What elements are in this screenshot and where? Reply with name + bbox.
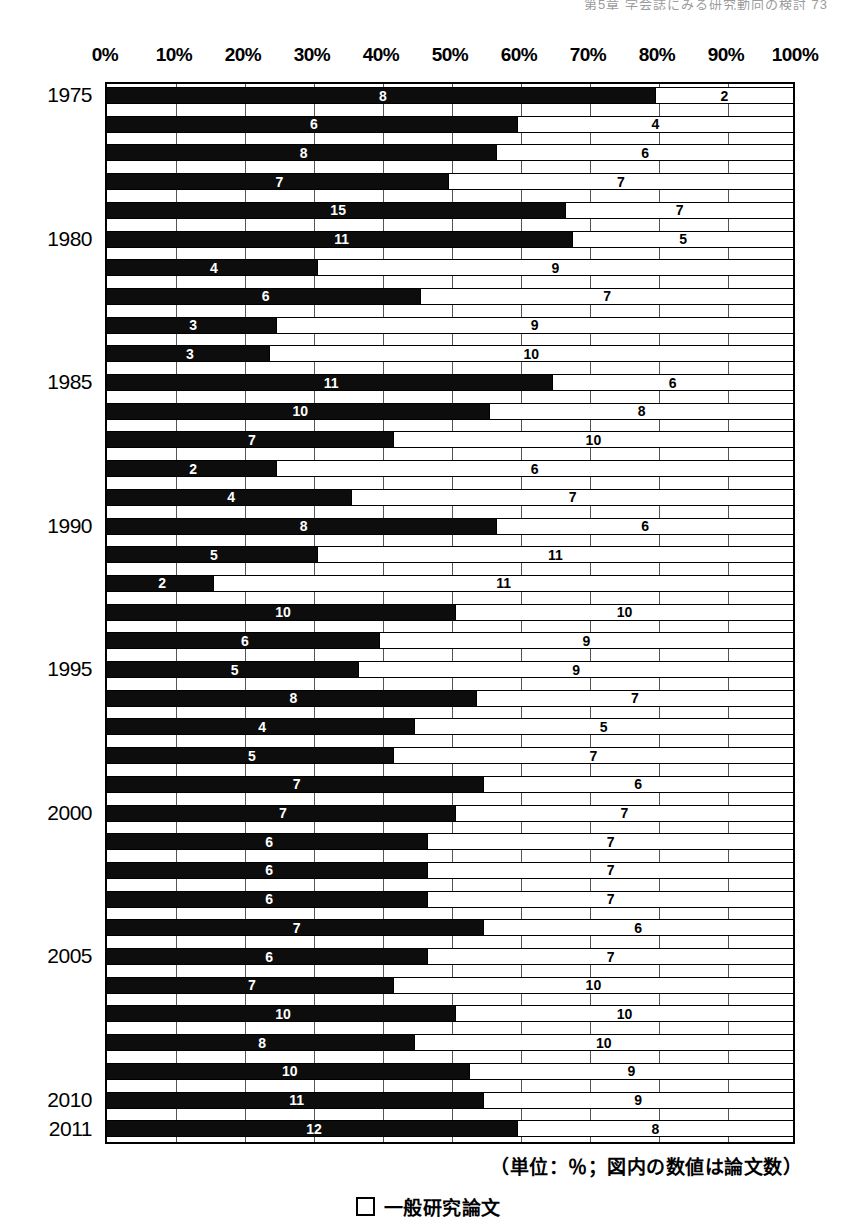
bar-segment-dark: 6 <box>107 949 431 964</box>
stacked-bar: 69 <box>107 632 793 649</box>
bar-segment-light: 10 <box>455 1006 793 1021</box>
bar-segment-light: 7 <box>427 834 793 849</box>
bar-segment-dark: 11 <box>107 1093 487 1108</box>
x-axis-tick-60: 60% <box>489 44 549 66</box>
bar-segment-light: 4 <box>517 117 793 132</box>
stacked-bar: 86 <box>107 144 793 161</box>
bar-segment-dark: 4 <box>107 490 355 505</box>
bar-segment-dark: 2 <box>107 576 217 591</box>
chart-row: 211 <box>107 572 793 597</box>
white-square-icon <box>356 1197 375 1216</box>
chart-row: 67 <box>107 285 793 310</box>
chart-plot-area: 8264867715711549673931011610871026478651… <box>105 82 795 1144</box>
bar-segment-dark: 7 <box>107 806 459 821</box>
x-axis-tick-50: 50% <box>420 44 480 66</box>
chart-row: 116 <box>107 371 793 396</box>
x-axis-tick-20: 20% <box>213 44 273 66</box>
stacked-bar: 77 <box>107 805 793 822</box>
bar-segment-light: 5 <box>572 232 793 247</box>
x-axis-tick-40: 40% <box>351 44 411 66</box>
bar-segment-light: 10 <box>269 346 793 361</box>
stacked-bar: 57 <box>107 747 793 764</box>
y-axis-label-1985: 1985 <box>0 370 92 394</box>
chart-row: 57 <box>107 744 793 769</box>
chart-row: 67 <box>107 830 793 855</box>
stacked-bar: 67 <box>107 833 793 850</box>
chart-row: 87 <box>107 687 793 712</box>
bar-segment-dark: 5 <box>107 547 321 562</box>
bar-segment-light: 8 <box>517 1121 793 1136</box>
bar-segment-light: 9 <box>317 260 793 275</box>
stacked-bar: 45 <box>107 718 793 735</box>
bar-segment-dark: 11 <box>107 232 576 247</box>
stacked-bar: 87 <box>107 690 793 707</box>
stacked-bar: 119 <box>107 1092 793 1109</box>
chart-row: 77 <box>107 802 793 827</box>
bar-segment-dark: 7 <box>107 432 397 447</box>
bar-segment-light: 7 <box>427 863 793 878</box>
bar-segment-light: 5 <box>414 719 794 734</box>
bar-segment-dark: 6 <box>107 117 521 132</box>
stacked-bar: 115 <box>107 231 793 248</box>
x-axis-tick-90: 90% <box>696 44 756 66</box>
bar-segment-dark: 10 <box>107 1006 459 1021</box>
x-axis-tick-labels: 0%10%20%30%40%50%60%70%80%90%100% <box>0 44 846 66</box>
x-axis-tick-70: 70% <box>558 44 618 66</box>
bar-segment-light: 9 <box>469 1064 793 1079</box>
stacked-bar: 77 <box>107 173 793 190</box>
bar-segment-dark: 6 <box>107 289 424 304</box>
bar-segment-light: 8 <box>489 404 793 419</box>
chart-row: 1010 <box>107 601 793 626</box>
chart-row: 49 <box>107 256 793 281</box>
y-axis-label-2011: 2011 <box>0 1117 92 1141</box>
y-axis-label-2005: 2005 <box>0 944 92 968</box>
stacked-bar: 109 <box>107 1063 793 1080</box>
stacked-bar: 39 <box>107 317 793 334</box>
bar-segment-dark: 8 <box>107 519 500 534</box>
y-axis-label-2000: 2000 <box>0 801 92 825</box>
y-axis-category-labels: 197519801985199019952000200520102011 <box>0 82 100 1144</box>
stacked-bar: 157 <box>107 202 793 219</box>
chart-row: 39 <box>107 314 793 339</box>
chart-row: 67 <box>107 888 793 913</box>
bar-segment-light: 7 <box>427 892 793 907</box>
bar-segment-dark: 7 <box>107 978 397 993</box>
stacked-bar: 1010 <box>107 1005 793 1022</box>
bar-segment-dark: 2 <box>107 461 280 476</box>
bar-segment-light: 11 <box>213 576 793 591</box>
chart-row: 511 <box>107 543 793 568</box>
bar-segment-light: 6 <box>483 777 794 792</box>
y-axis-label-1975: 1975 <box>0 83 92 107</box>
bar-segment-light: 9 <box>276 318 794 333</box>
chart-row: 109 <box>107 1060 793 1085</box>
bar-segment-light: 7 <box>565 203 793 218</box>
bar-segment-dark: 8 <box>107 691 480 706</box>
bar-segment-dark: 6 <box>107 892 431 907</box>
chart-bar-rows: 8264867715711549673931011610871026478651… <box>107 84 793 1142</box>
bar-segment-dark: 8 <box>107 88 659 103</box>
bar-segment-dark: 3 <box>107 318 280 333</box>
bar-segment-light: 11 <box>317 547 793 562</box>
bar-segment-dark: 8 <box>107 145 500 160</box>
bar-segment-light: 7 <box>393 748 793 763</box>
chart-row: 108 <box>107 400 793 425</box>
chart-row: 128 <box>107 1117 793 1142</box>
stacked-bar: 710 <box>107 977 793 994</box>
chart-row: 86 <box>107 515 793 540</box>
x-axis-tick-80: 80% <box>627 44 687 66</box>
stacked-bar: 810 <box>107 1034 793 1051</box>
chart-row: 59 <box>107 658 793 683</box>
y-axis-label-1990: 1990 <box>0 514 92 538</box>
bar-segment-light: 10 <box>393 978 793 993</box>
bar-segment-light: 9 <box>358 662 793 677</box>
bar-segment-light: 6 <box>496 145 793 160</box>
bar-segment-dark: 11 <box>107 375 556 390</box>
bar-segment-dark: 7 <box>107 174 452 189</box>
chart-row: 76 <box>107 773 793 798</box>
bar-segment-dark: 3 <box>107 346 273 361</box>
stacked-bar: 26 <box>107 460 793 477</box>
stacked-bar: 108 <box>107 403 793 420</box>
bar-segment-light: 6 <box>276 461 794 476</box>
x-axis-tick-30: 30% <box>282 44 342 66</box>
stacked-bar: 67 <box>107 862 793 879</box>
